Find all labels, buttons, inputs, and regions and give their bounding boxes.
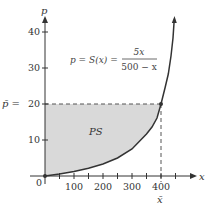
equilibrium-point <box>159 102 163 106</box>
y-tick-label-20: 20 <box>28 98 40 109</box>
x-tick-label-100: 100 <box>65 181 83 192</box>
y-tick-label-10: 10 <box>28 134 40 145</box>
equation-denominator: 500 − x <box>121 62 157 72</box>
curve-arrow-icon <box>172 16 177 23</box>
y-tick-label-40: 40 <box>28 26 40 37</box>
origin-label: 0 <box>36 177 42 188</box>
supply-curve-diagram: p x 0 100 200 300 400 10 20 30 40 p̄ = x… <box>0 0 207 209</box>
x-tick-label-300: 300 <box>123 181 141 192</box>
ps-region-label: PS <box>88 126 103 137</box>
y-tick-label-30: 30 <box>28 62 40 73</box>
x-axis-label: x <box>199 171 205 182</box>
equation-lhs: p = S(x) = <box>70 55 118 65</box>
y-axis-arrow-icon <box>42 16 48 23</box>
p-bar-label: p̄ = <box>2 98 20 109</box>
x-tick-label-400: 400 <box>152 181 170 192</box>
y-axis-label: p <box>41 5 48 16</box>
x-axis-arrow-icon <box>190 173 197 179</box>
equation-numerator: 5x <box>134 47 145 57</box>
x-bar-label: x̄ <box>157 194 163 205</box>
producer-surplus-region <box>45 104 161 176</box>
x-tick-label-200: 200 <box>94 181 112 192</box>
origin-point <box>43 174 47 178</box>
